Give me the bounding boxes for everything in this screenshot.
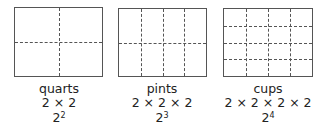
horizontal-divider: [224, 26, 312, 27]
horizontal-divider: [119, 43, 206, 44]
pints-product: 2 × 2 × 2: [102, 96, 222, 110]
pints-name: pints: [102, 82, 222, 96]
power-exponent: 4: [269, 111, 274, 120]
horizontal-divider: [224, 43, 312, 44]
cups-name: cups: [208, 82, 328, 96]
power-exponent: 2: [60, 111, 65, 120]
cups-product: 2 × 2 × 2 × 2: [208, 96, 328, 110]
cups-rectangle: [223, 8, 313, 77]
horizontal-divider: [224, 59, 312, 60]
horizontal-divider: [15, 42, 102, 43]
power-exponent: 3: [163, 111, 168, 120]
pints-power: 23: [102, 111, 222, 125]
pints-rectangle: [118, 8, 207, 77]
cups-power: 24: [208, 111, 328, 125]
quarts-rectangle: [14, 7, 103, 77]
